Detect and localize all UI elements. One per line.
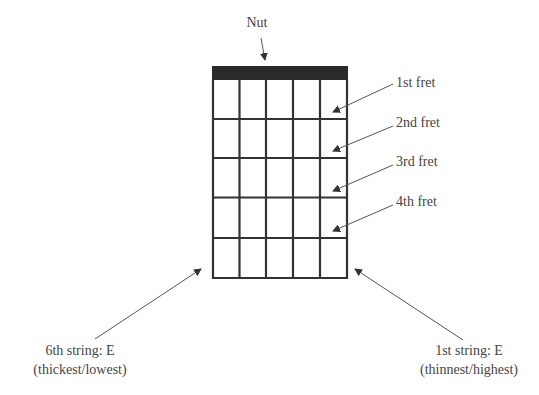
fretboard-diagram (0, 0, 539, 395)
fret1-arrow (333, 84, 393, 112)
fret-grid (212, 80, 348, 278)
fret4-label: 4th fret (396, 192, 437, 211)
string1-desc: (thinnest/highest) (420, 360, 518, 379)
string6-label: 6th string: E (thickest/lowest) (33, 341, 126, 379)
nut-arrow (261, 38, 265, 60)
fret3-arrow (333, 165, 393, 191)
fret2-label: 2nd fret (396, 113, 440, 132)
string6-arrow (95, 269, 201, 339)
string6-name: 6th string: E (33, 341, 126, 360)
fret4-arrow (333, 205, 393, 231)
nut-label: Nut (247, 13, 268, 32)
string6-desc: (thickest/lowest) (33, 360, 126, 379)
fret1-label: 1st fret (396, 73, 435, 92)
nut (212, 66, 348, 80)
fret3-label: 3rd fret (396, 152, 438, 171)
fret2-arrow (333, 126, 393, 151)
string1-arrow (355, 269, 463, 340)
string1-label: 1st string: E (thinnest/highest) (420, 341, 518, 379)
string1-name: 1st string: E (420, 341, 518, 360)
